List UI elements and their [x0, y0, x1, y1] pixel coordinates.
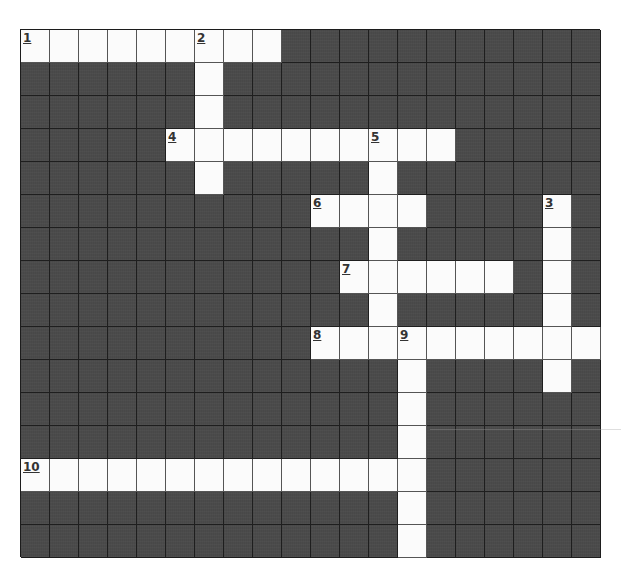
letter-input[interactable] [50, 30, 78, 62]
crossword-cell[interactable]: 1 [21, 30, 50, 63]
crossword-cell[interactable] [369, 261, 398, 294]
crossword-cell[interactable] [369, 294, 398, 327]
letter-input[interactable] [21, 459, 49, 491]
crossword-cell[interactable] [340, 129, 369, 162]
letter-input[interactable] [427, 129, 455, 161]
letter-input[interactable] [166, 129, 194, 161]
letter-input[interactable] [398, 459, 426, 491]
letter-input[interactable] [485, 327, 513, 359]
crossword-cell[interactable] [50, 30, 79, 63]
letter-input[interactable] [108, 30, 136, 62]
letter-input[interactable] [543, 360, 571, 392]
letter-input[interactable] [543, 261, 571, 293]
letter-input[interactable] [398, 327, 426, 359]
letter-input[interactable] [311, 459, 339, 491]
crossword-cell[interactable] [398, 525, 427, 558]
crossword-cell[interactable] [340, 459, 369, 492]
letter-input[interactable] [398, 492, 426, 524]
letter-input[interactable] [311, 327, 339, 359]
crossword-cell[interactable] [79, 459, 108, 492]
crossword-cell[interactable] [282, 129, 311, 162]
crossword-cell[interactable] [195, 459, 224, 492]
crossword-cell[interactable] [195, 96, 224, 129]
crossword-cell[interactable] [166, 30, 195, 63]
letter-input[interactable] [137, 30, 165, 62]
crossword-cell[interactable]: 6 [311, 195, 340, 228]
crossword-cell[interactable]: 5 [369, 129, 398, 162]
letter-input[interactable] [311, 129, 339, 161]
letter-input[interactable] [195, 30, 223, 62]
crossword-cell[interactable] [427, 327, 456, 360]
crossword-cell[interactable] [311, 129, 340, 162]
crossword-cell[interactable] [166, 459, 195, 492]
crossword-cell[interactable] [543, 327, 572, 360]
letter-input[interactable] [398, 129, 426, 161]
letter-input[interactable] [195, 63, 223, 95]
crossword-cell[interactable] [369, 228, 398, 261]
crossword-cell[interactable] [427, 129, 456, 162]
letter-input[interactable] [340, 459, 368, 491]
crossword-cell[interactable] [340, 327, 369, 360]
letter-input[interactable] [253, 459, 281, 491]
letter-input[interactable] [543, 195, 571, 227]
crossword-cell[interactable] [543, 228, 572, 261]
crossword-cell[interactable] [543, 261, 572, 294]
crossword-cell[interactable] [572, 327, 601, 360]
letter-input[interactable] [369, 261, 397, 293]
letter-input[interactable] [543, 327, 571, 359]
letter-input[interactable] [311, 195, 339, 227]
letter-input[interactable] [398, 195, 426, 227]
crossword-cell[interactable] [485, 261, 514, 294]
letter-input[interactable] [543, 228, 571, 260]
letter-input[interactable] [369, 129, 397, 161]
crossword-cell[interactable] [253, 459, 282, 492]
letter-input[interactable] [21, 30, 49, 62]
letter-input[interactable] [369, 327, 397, 359]
letter-input[interactable] [456, 327, 484, 359]
crossword-cell[interactable]: 7 [340, 261, 369, 294]
letter-input[interactable] [514, 327, 542, 359]
letter-input[interactable] [340, 327, 368, 359]
crossword-cell[interactable]: 2 [195, 30, 224, 63]
letter-input[interactable] [195, 459, 223, 491]
letter-input[interactable] [543, 294, 571, 326]
crossword-cell[interactable] [50, 459, 79, 492]
crossword-cell[interactable] [253, 129, 282, 162]
crossword-cell[interactable] [340, 195, 369, 228]
letter-input[interactable] [369, 459, 397, 491]
crossword-cell[interactable] [224, 129, 253, 162]
letter-input[interactable] [427, 261, 455, 293]
crossword-cell[interactable] [398, 195, 427, 228]
crossword-cell[interactable] [137, 459, 166, 492]
crossword-cell[interactable] [456, 327, 485, 360]
letter-input[interactable] [572, 327, 600, 359]
letter-input[interactable] [398, 525, 426, 557]
crossword-cell[interactable]: 8 [311, 327, 340, 360]
crossword-cell[interactable] [311, 459, 340, 492]
crossword-cell[interactable] [282, 459, 311, 492]
crossword-cell[interactable]: 3 [543, 195, 572, 228]
letter-input[interactable] [282, 129, 310, 161]
letter-input[interactable] [137, 459, 165, 491]
letter-input[interactable] [369, 162, 397, 194]
letter-input[interactable] [79, 30, 107, 62]
letter-input[interactable] [195, 129, 223, 161]
crossword-cell[interactable] [485, 327, 514, 360]
crossword-cell[interactable] [398, 129, 427, 162]
letter-input[interactable] [166, 30, 194, 62]
letter-input[interactable] [398, 261, 426, 293]
letter-input[interactable] [485, 261, 513, 293]
letter-input[interactable] [340, 129, 368, 161]
letter-input[interactable] [340, 195, 368, 227]
letter-input[interactable] [427, 327, 455, 359]
letter-input[interactable] [456, 261, 484, 293]
crossword-cell[interactable] [543, 360, 572, 393]
letter-input[interactable] [108, 459, 136, 491]
crossword-cell[interactable] [369, 327, 398, 360]
crossword-cell[interactable]: 4 [166, 129, 195, 162]
crossword-cell[interactable] [398, 393, 427, 426]
letter-input[interactable] [166, 459, 194, 491]
crossword-cell[interactable] [398, 459, 427, 492]
crossword-cell[interactable] [253, 30, 282, 63]
letter-input[interactable] [282, 459, 310, 491]
